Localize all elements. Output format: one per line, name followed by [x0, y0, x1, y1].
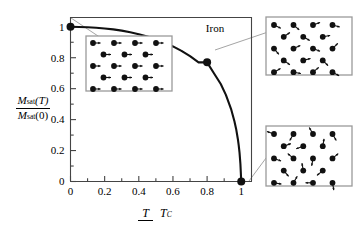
- y-den-arg: (0): [35, 109, 48, 121]
- spin-atom: [271, 156, 277, 162]
- spin-atom: [271, 131, 277, 137]
- spin-atom: [330, 180, 336, 186]
- x-axis-label-numerator: T: [138, 207, 153, 221]
- spin-atom: [291, 46, 297, 52]
- spin-atom: [310, 46, 316, 52]
- spin-atom: [111, 63, 117, 69]
- magnetization-vs-temperature-figure: 00.20.40.60.8100.20.40.60.81 Iron Msat(T…: [0, 0, 358, 243]
- x-tick-label: 0.6: [166, 185, 180, 197]
- spin-atom: [153, 40, 159, 46]
- spin-atom: [271, 180, 277, 186]
- partially-disordered-inset-frame: [266, 17, 352, 75]
- y-axis-label-denominator: Msat(0): [16, 109, 50, 122]
- spin-atom: [330, 156, 336, 162]
- spin-atom: [143, 75, 149, 81]
- y-axis-label: Msat(T) Msat(0): [2, 95, 64, 121]
- x-den-T: T: [160, 206, 167, 220]
- spin-atom: [310, 156, 316, 162]
- spin-atom: [111, 40, 117, 46]
- spin-atom: [330, 46, 336, 52]
- spin-atom: [90, 63, 96, 69]
- spin-atom: [281, 58, 287, 64]
- spin-atom: [291, 180, 297, 186]
- spin-atom: [330, 22, 336, 28]
- iron-label: Iron: [206, 22, 225, 34]
- ordered-spins-inset: [86, 36, 172, 92]
- partially-disordered-spins-inset: [266, 17, 352, 76]
- spin-atom: [153, 86, 159, 92]
- data-point-marker: [203, 58, 211, 66]
- y-axis-label-numerator: Msat(T): [16, 95, 51, 109]
- spin-atom: [143, 52, 149, 58]
- x-den-sub: C: [167, 210, 172, 219]
- y-num-M: M: [18, 94, 27, 106]
- spin-atom: [291, 156, 297, 162]
- spin-atom: [101, 52, 107, 58]
- spin-atom: [310, 69, 316, 75]
- spin-atom: [271, 46, 277, 52]
- randomized-inset-frame: [266, 126, 352, 186]
- spin-atom: [90, 86, 96, 92]
- y-num-arg: (T): [35, 94, 48, 106]
- spin-atom: [122, 75, 128, 81]
- spin-atom: [153, 63, 159, 69]
- y-tick-label: 0.2: [51, 144, 65, 156]
- spin-atom: [281, 34, 287, 40]
- spin-atom: [320, 34, 326, 40]
- data-point-marker: [237, 178, 245, 186]
- y-tick-label: 0.6: [51, 82, 65, 94]
- spin-atom: [291, 69, 297, 75]
- spin-atom: [291, 22, 297, 28]
- spin-atom: [330, 69, 336, 75]
- spin-atom: [310, 131, 316, 137]
- spin-atom: [122, 52, 128, 58]
- spin-atom: [330, 131, 336, 137]
- spin-atom: [320, 58, 326, 64]
- spin-atom: [271, 69, 277, 75]
- spin-atom: [281, 143, 287, 149]
- spin-atom: [291, 131, 297, 137]
- spin-atom: [320, 168, 326, 174]
- y-tick-label: 1: [59, 21, 65, 33]
- y-tick-label: 0: [59, 175, 65, 187]
- x-tick-label: 0.2: [98, 185, 112, 197]
- randomized-spins-inset: [266, 126, 352, 190]
- spin-atom: [90, 40, 96, 46]
- spin-atom: [320, 143, 326, 149]
- spin-atom: [300, 143, 306, 149]
- spin-atom: [132, 63, 138, 69]
- x-axis-label: T TC: [132, 206, 182, 221]
- y-tick-label: 0.8: [51, 52, 65, 64]
- spin-atom: [132, 40, 138, 46]
- x-axis-label-denominator: TC: [156, 206, 176, 220]
- data-point-marker: [67, 23, 75, 31]
- spin-atom: [300, 58, 306, 64]
- spin-atom: [281, 168, 287, 174]
- x-tick-label: 1: [239, 185, 245, 197]
- spin-atom: [132, 86, 138, 92]
- spin-atom: [300, 168, 306, 174]
- y-den-M: M: [18, 109, 27, 121]
- x-tick-label: 0.4: [132, 185, 146, 197]
- spin-atom: [111, 86, 117, 92]
- y-num-sub: sat: [27, 97, 35, 106]
- spin-atom: [310, 180, 316, 186]
- spin-atom: [300, 34, 306, 40]
- x-tick-label: 0.8: [200, 185, 214, 197]
- spin-atom: [310, 22, 316, 28]
- spin-atom: [271, 22, 277, 28]
- ordered-spins-inset-frame: [86, 36, 172, 91]
- x-tick-label: 0: [68, 185, 74, 197]
- spin-atom: [101, 75, 107, 81]
